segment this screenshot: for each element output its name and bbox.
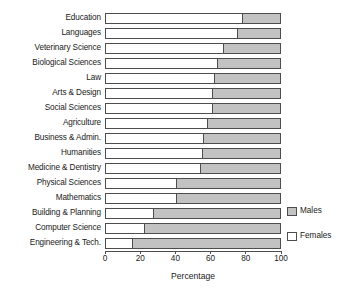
bar-segment-males <box>214 74 280 83</box>
bar-segment-females <box>106 59 217 68</box>
legend-swatch-icon <box>287 207 297 216</box>
bar-row <box>105 11 281 26</box>
bar-row <box>105 161 281 176</box>
bar-segment-females <box>106 74 214 83</box>
bar-segment-females <box>106 44 223 53</box>
category-label: Education <box>0 11 101 26</box>
bar-segment-males <box>217 59 280 68</box>
legend-swatch-icon <box>287 232 297 241</box>
x-axis-tick-label: 100 <box>274 255 288 263</box>
x-axis: 020406080100 <box>105 251 281 252</box>
bar-segment-males <box>153 209 280 218</box>
bar-segment-females <box>106 29 237 38</box>
bar-segment-males <box>212 89 280 98</box>
bar-segment-females <box>106 149 202 158</box>
x-axis-tick-label: 60 <box>206 255 215 263</box>
bar-segment-females <box>106 224 144 233</box>
bar-segment-males <box>223 44 280 53</box>
category-label: Business & Admin. <box>0 131 101 146</box>
stacked-bar <box>105 28 281 39</box>
legend-label: Females <box>300 232 331 240</box>
bar-segment-males <box>203 134 280 143</box>
stacked-bar <box>105 103 281 114</box>
bar-row <box>105 41 281 56</box>
bar-row <box>105 236 281 251</box>
bar-segment-males <box>132 239 280 248</box>
category-label: Building & Planning <box>0 206 101 221</box>
bar-row <box>105 221 281 236</box>
bar-segment-males <box>200 164 280 173</box>
bar-row <box>105 26 281 41</box>
legend: Males Females <box>287 207 345 257</box>
bar-row <box>105 56 281 71</box>
category-label: Languages <box>0 26 101 41</box>
category-label: Physical Sciences <box>0 176 101 191</box>
bar-segment-females <box>106 239 132 248</box>
category-label: Law <box>0 71 101 86</box>
bar-segment-females <box>106 104 212 113</box>
bar-segment-males <box>207 119 280 128</box>
legend-item-females: Females <box>287 232 345 241</box>
bar-row <box>105 191 281 206</box>
bar-segment-males <box>176 194 280 203</box>
stacked-bar <box>105 13 281 24</box>
category-label: Engineering & Tech. <box>0 236 101 251</box>
stacked-bar <box>105 148 281 159</box>
bar-segment-males <box>144 224 280 233</box>
x-axis-tick-label: 80 <box>241 255 250 263</box>
legend-item-males: Males <box>287 207 345 216</box>
x-axis-title: Percentage <box>105 272 281 281</box>
bar-segment-males <box>242 14 280 23</box>
plot-area <box>105 11 281 251</box>
category-label: Agriculture <box>0 116 101 131</box>
stacked-bar <box>105 163 281 174</box>
bar-segment-males <box>212 104 280 113</box>
bar-segment-males <box>176 179 280 188</box>
bar-row <box>105 131 281 146</box>
category-label: Computer Science <box>0 221 101 236</box>
stacked-bar <box>105 178 281 189</box>
bar-segment-males <box>237 29 281 38</box>
category-label: Biological Sciences <box>0 56 101 71</box>
x-axis-tick-label: 0 <box>103 255 108 263</box>
legend-label: Males <box>300 207 322 215</box>
bar-row <box>105 176 281 191</box>
bar-segment-females <box>106 89 212 98</box>
bar-rows <box>105 11 281 251</box>
bar-row <box>105 71 281 86</box>
stacked-bar-chart: Education Languages Veterinary Science B… <box>0 0 347 291</box>
stacked-bar <box>105 43 281 54</box>
category-label: Arts & Design <box>0 86 101 101</box>
bar-row <box>105 206 281 221</box>
bar-row <box>105 116 281 131</box>
stacked-bar <box>105 58 281 69</box>
bar-row <box>105 101 281 116</box>
bar-segment-females <box>106 134 203 143</box>
category-label: Medicine & Dentistry <box>0 161 101 176</box>
bar-row <box>105 146 281 161</box>
bar-segment-females <box>106 164 200 173</box>
category-label: Humanities <box>0 146 101 161</box>
x-axis-tick-label: 20 <box>136 255 145 263</box>
x-axis-tick-label: 40 <box>171 255 180 263</box>
bar-segment-females <box>106 209 153 218</box>
stacked-bar <box>105 133 281 144</box>
stacked-bar <box>105 73 281 84</box>
bar-segment-females <box>106 194 176 203</box>
bar-segment-females <box>106 179 176 188</box>
bar-segment-females <box>106 14 242 23</box>
bar-segment-females <box>106 119 207 128</box>
stacked-bar <box>105 193 281 204</box>
bar-row <box>105 86 281 101</box>
category-label: Veterinary Science <box>0 41 101 56</box>
stacked-bar <box>105 88 281 99</box>
stacked-bar <box>105 118 281 129</box>
bar-segment-males <box>202 149 280 158</box>
stacked-bar <box>105 223 281 234</box>
stacked-bar <box>105 208 281 219</box>
category-label: Social Sciences <box>0 101 101 116</box>
y-axis-category-labels: Education Languages Veterinary Science B… <box>0 11 101 251</box>
stacked-bar <box>105 238 281 249</box>
category-label: Mathematics <box>0 191 101 206</box>
